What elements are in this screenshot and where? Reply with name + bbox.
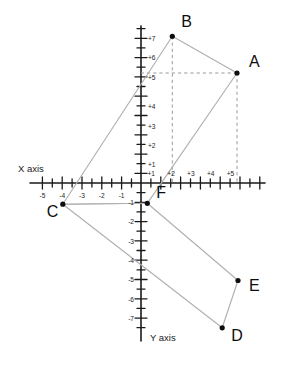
y-tick-label-pos4: +4 [148,103,156,110]
point-label-f: F [156,184,166,201]
x-tick-label-neg4: -4 [59,192,65,199]
y-tick-label-pos3: +3 [148,123,156,130]
y-tick-label-neg2: -2 [128,218,134,225]
y-tick-label-pos7: +7 [148,35,156,42]
point-e-dot [235,278,240,283]
y-tick-label-pos1: +1 [148,161,156,168]
x-tick-label-pos4: +4 [207,170,215,177]
coordinate-plane-figure: -5 -4 -3 -2 -1 +1 +2 +3 +4 +5 +1 +2 +3 +… [0,0,292,369]
y-tick-label-neg7: -7 [128,315,134,322]
x-tick-label-neg2: -2 [99,192,105,199]
point-a-dot [234,70,239,75]
point-label-d: D [231,327,243,344]
y-tick-label-neg5: -5 [128,276,134,283]
y-tick-label-neg3: -3 [128,238,134,245]
x-tick-label-pos3: +3 [187,170,195,177]
point-c-dot [60,202,65,207]
x-tick-label-neg1: -1 [119,192,125,199]
point-label-a: A [249,53,260,70]
y-tick-label-pos5: +5 [148,74,156,81]
point-f-dot [145,201,150,206]
x-tick-label-pos5: +5 [227,170,235,177]
x-axis-label: X axis [18,163,44,174]
point-label-c: C [47,203,59,220]
y-tick-label-pos6: +6 [148,54,156,61]
coordinate-plot-svg: -5 -4 -3 -2 -1 +1 +2 +3 +4 +5 +1 +2 +3 +… [0,0,292,369]
x-tick-label-pos2: +2 [167,170,175,177]
y-tick-label-neg6: -6 [128,296,134,303]
point-label-b: B [181,13,192,30]
y-tick-label-neg4: -4 [128,257,134,264]
x-tick-label-pos1: +1 [148,170,156,177]
x-tick-label-neg3: -3 [79,192,85,199]
x-tick-label-neg5: -5 [39,192,45,199]
quadrilateral-cfed-lower [63,203,238,327]
point-d-dot [220,325,225,330]
y-tick-label-neg1: -1 [128,199,134,206]
point-b-dot [170,34,175,39]
y-tick-label-pos2: +2 [148,142,156,149]
y-axis-label: Y axis [150,332,176,343]
point-label-e: E [249,277,260,294]
